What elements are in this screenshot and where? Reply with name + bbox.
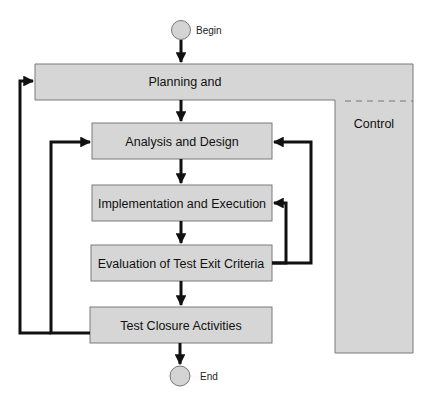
step-evaluation: Evaluation of Test Exit Criteria <box>91 245 272 281</box>
control-label: Control <box>354 117 394 131</box>
begin-circle-icon <box>172 21 191 40</box>
step-analysis: Analysis and Design <box>92 123 272 159</box>
closure-label: Test Closure Activities <box>120 319 242 333</box>
arrow-closure-to-analysis <box>51 142 90 333</box>
arrow-evaluation-to-implementation <box>272 203 286 263</box>
step-closure: Test Closure Activities <box>90 307 272 343</box>
begin-label: Begin <box>196 25 222 36</box>
end-label: End <box>200 371 218 382</box>
begin-node: Begin <box>172 21 222 40</box>
planning-label: Planning and <box>149 75 222 89</box>
arrow-closure-to-planning <box>20 81 51 333</box>
test-process-diagram: Planning and Control Begin Analysis and … <box>0 0 425 401</box>
analysis-label: Analysis and Design <box>125 135 238 149</box>
end-circle-icon <box>170 366 190 386</box>
step-implementation: Implementation and Execution <box>92 185 272 221</box>
evaluation-label: Evaluation of Test Exit Criteria <box>98 257 265 271</box>
implementation-label: Implementation and Execution <box>98 197 266 211</box>
end-node: End <box>170 366 218 386</box>
